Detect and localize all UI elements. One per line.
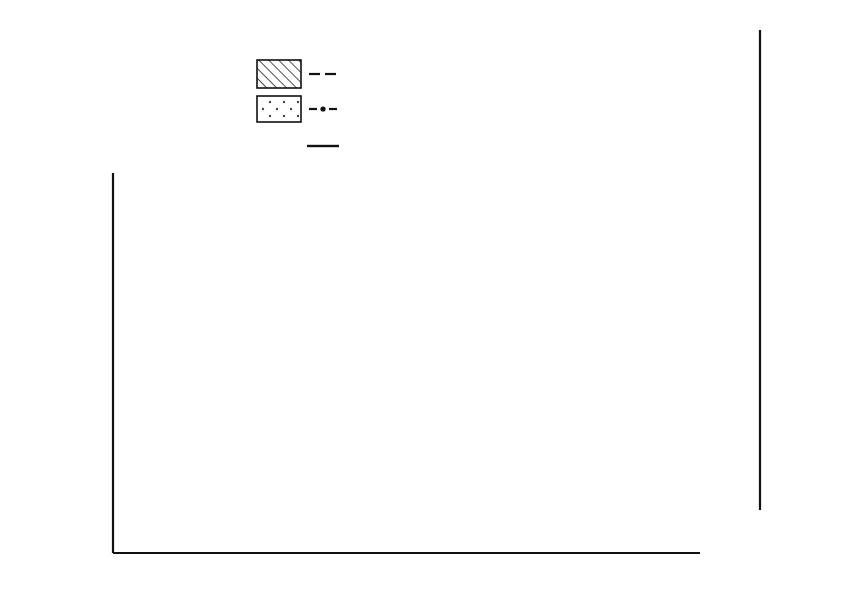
chart-svg <box>0 0 865 613</box>
legend <box>257 60 339 146</box>
legend-dash-domestic <box>309 106 337 111</box>
chart-figure <box>0 0 865 613</box>
legend-swatch-industry <box>257 60 301 88</box>
legend-swatch-domestic <box>257 96 301 122</box>
